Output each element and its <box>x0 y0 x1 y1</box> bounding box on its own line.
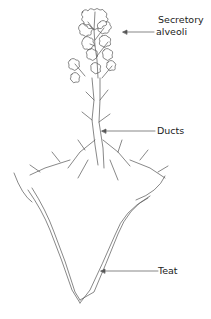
udder-outline <box>14 173 165 303</box>
label-secretory-alveoli-line2: alveoli <box>156 26 187 37</box>
mammary-gland-diagram <box>0 0 211 319</box>
label-teat: Teat <box>158 265 178 276</box>
secretory-alveoli-cluster <box>68 9 116 83</box>
ducts-branches <box>30 78 168 180</box>
label-ducts: Ducts <box>157 125 184 136</box>
label-secretory-alveoli-line1: Secretory <box>158 14 204 25</box>
leader-lines <box>101 30 158 273</box>
